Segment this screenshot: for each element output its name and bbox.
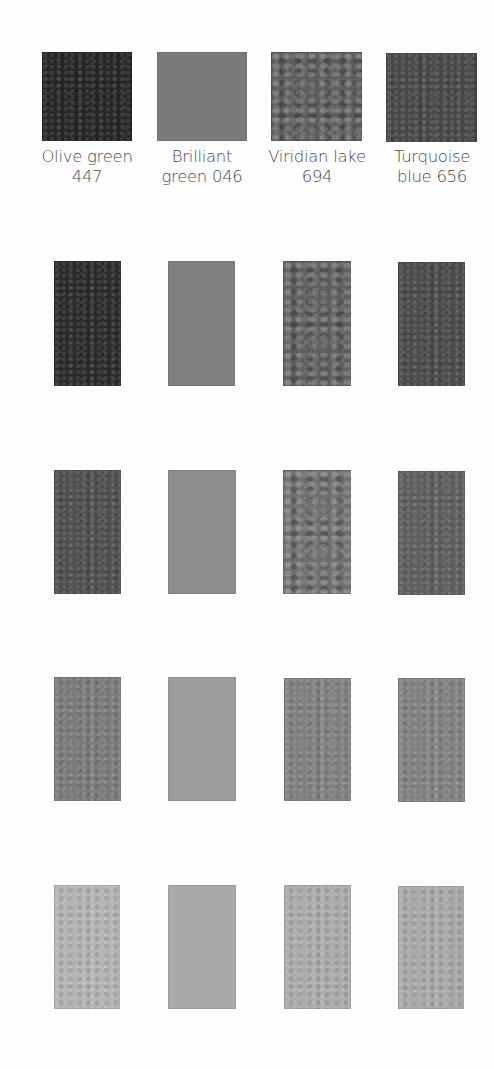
tint-swatch-brilliant-green-1 [168,261,235,386]
swatch-label-line2: 447 [27,167,147,187]
tint-swatch-turquoise-blue-4 [398,886,464,1009]
swatch-square-olive-green [42,52,132,141]
tint-swatch-brilliant-green-4 [168,885,236,1009]
tint-swatch-viridian-lake-2 [283,470,351,594]
swatch-label-olive-green: Olive green 447 [27,147,147,187]
swatch-label-line1: Turquoise [372,147,492,167]
tint-swatch-olive-green-3 [54,677,121,801]
swatch-square-brilliant-green [157,52,247,141]
tint-swatch-turquoise-blue-2 [398,471,465,595]
swatch-square-viridian-lake [271,52,362,141]
swatch-label-line2: green 046 [142,167,262,187]
swatch-square-turquoise-blue [386,53,477,142]
tint-swatch-viridian-lake-1 [283,261,351,386]
swatch-label-line1: Olive green [27,147,147,167]
tint-swatch-turquoise-blue-1 [398,262,465,386]
tint-swatch-viridian-lake-3 [284,678,351,801]
swatch-label-line1: Brilliant [142,147,262,167]
tint-swatch-turquoise-blue-3 [398,678,465,802]
tint-swatch-olive-green-1 [54,261,121,386]
tint-swatch-olive-green-2 [54,470,121,594]
swatch-label-line1: Viridian lake [257,147,377,167]
tint-swatch-brilliant-green-3 [168,677,236,801]
swatch-label-turquoise-blue: Turquoise blue 656 [372,147,492,187]
tint-swatch-viridian-lake-4 [284,885,351,1009]
tint-swatch-brilliant-green-2 [168,470,236,594]
tint-swatch-olive-green-4 [54,885,120,1009]
swatch-label-line2: 694 [257,167,377,187]
swatch-label-brilliant-green: Brilliant green 046 [142,147,262,187]
swatch-label-viridian-lake: Viridian lake 694 [257,147,377,187]
swatch-label-line2: blue 656 [372,167,492,187]
